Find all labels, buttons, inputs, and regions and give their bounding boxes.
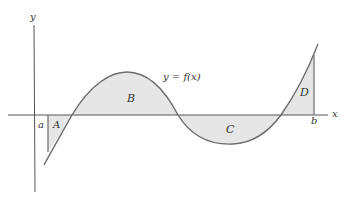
y-axis-label: y [29, 11, 36, 22]
region-d-label: D [299, 86, 309, 99]
x-axis-label: x [332, 108, 338, 119]
region-b-label: B [126, 92, 135, 105]
region-c-label: C [226, 123, 235, 136]
bound-a-label: a [38, 119, 44, 130]
bound-b-label: b [311, 115, 317, 126]
area-diagram: y x a b y = f(x) A B C D [0, 0, 362, 201]
y-axis [34, 25, 35, 192]
curve-label: y = f(x) [162, 71, 201, 82]
region-a-label: A [52, 119, 60, 130]
